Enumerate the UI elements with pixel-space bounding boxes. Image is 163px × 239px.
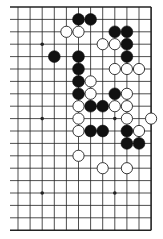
white-stone	[73, 113, 84, 124]
white-stone	[85, 76, 96, 87]
white-stone	[133, 125, 144, 136]
black-stone	[48, 51, 60, 63]
white-stone	[121, 88, 132, 99]
black-stone	[73, 76, 85, 88]
white-stone	[109, 101, 120, 112]
star-point	[40, 42, 44, 46]
black-stone	[121, 138, 133, 150]
black-stone	[121, 38, 133, 50]
white-stone	[109, 63, 120, 74]
white-stone	[73, 150, 84, 161]
white-stone	[97, 39, 108, 50]
white-stone	[73, 125, 84, 136]
star-point	[40, 117, 44, 121]
black-stone	[73, 63, 85, 75]
go-board	[0, 0, 163, 239]
black-stone	[121, 51, 133, 63]
white-stone	[146, 113, 157, 124]
black-stone	[97, 100, 109, 112]
white-stone	[121, 113, 132, 124]
black-stone	[85, 14, 97, 26]
black-stone	[85, 100, 97, 112]
black-stone	[73, 88, 85, 100]
star-point	[113, 117, 117, 121]
black-stone	[121, 125, 133, 137]
white-stone	[109, 39, 120, 50]
white-stone	[121, 101, 132, 112]
black-stone	[85, 125, 97, 137]
star-point	[113, 191, 117, 195]
white-stone	[61, 26, 72, 37]
black-stone	[73, 14, 85, 26]
white-stone	[73, 26, 84, 37]
black-stone	[121, 26, 133, 38]
black-stone	[97, 125, 109, 137]
star-point	[40, 191, 44, 195]
black-stone	[73, 51, 85, 63]
black-stone	[109, 88, 121, 100]
white-stone	[121, 163, 132, 174]
white-stone	[73, 101, 84, 112]
white-stone	[133, 63, 144, 74]
white-stone	[121, 63, 132, 74]
white-stone	[97, 163, 108, 174]
white-stone	[85, 88, 96, 99]
black-stone	[109, 26, 121, 38]
black-stone	[133, 138, 145, 150]
